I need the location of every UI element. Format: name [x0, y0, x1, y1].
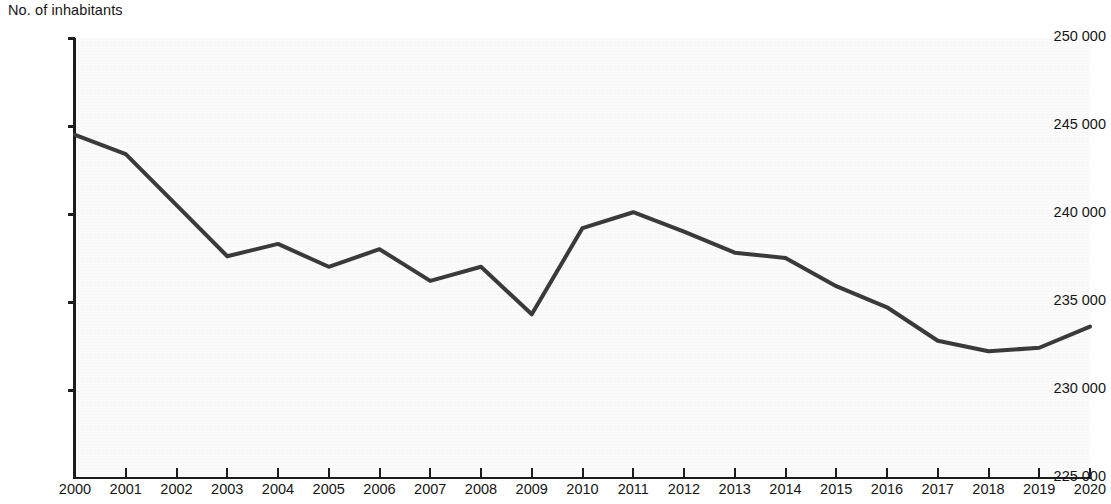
x-tick-label-2019: 2019	[1015, 481, 1063, 497]
x-tick-label-2008: 2008	[457, 481, 505, 497]
x-tick-mark-2016	[886, 468, 888, 477]
x-tick-label-2011: 2011	[609, 481, 657, 497]
x-tick-label-2010: 2010	[559, 481, 607, 497]
x-tick-label-2012: 2012	[660, 481, 708, 497]
x-tick-mark-2015	[835, 468, 837, 477]
x-tick-mark-2009	[531, 468, 533, 477]
y-tick-label-240000: 240 000	[1042, 204, 1106, 220]
y-tick-mark-245000	[68, 125, 75, 128]
x-tick-mark-2018	[988, 468, 990, 477]
x-tick-mark-2008	[480, 468, 482, 477]
x-tick-label-2006: 2006	[356, 481, 404, 497]
x-tick-label-2020: 2020	[1066, 481, 1111, 497]
x-tick-label-2015: 2015	[812, 481, 860, 497]
x-tick-mark-2002	[176, 468, 178, 477]
y-tick-label-230000: 230 000	[1042, 380, 1106, 396]
x-tick-mark-2013	[734, 468, 736, 477]
x-tick-label-2001: 2001	[102, 481, 150, 497]
x-tick-mark-2014	[785, 468, 787, 477]
y-axis-line	[73, 38, 76, 479]
x-tick-mark-2017	[937, 468, 939, 477]
plot-area	[75, 38, 1090, 478]
x-tick-mark-2012	[683, 468, 685, 477]
x-tick-label-2016: 2016	[863, 481, 911, 497]
x-tick-label-2017: 2017	[914, 481, 962, 497]
y-tick-mark-230000	[68, 389, 75, 392]
x-tick-label-2018: 2018	[965, 481, 1013, 497]
x-tick-mark-2003	[226, 468, 228, 477]
x-tick-mark-2006	[379, 468, 381, 477]
x-tick-label-2002: 2002	[153, 481, 201, 497]
x-tick-label-2007: 2007	[406, 481, 454, 497]
x-tick-label-2003: 2003	[203, 481, 251, 497]
x-tick-mark-2000	[74, 468, 76, 477]
x-tick-label-2014: 2014	[762, 481, 810, 497]
x-tick-label-2000: 2000	[51, 481, 99, 497]
y-tick-label-235000: 235 000	[1042, 292, 1106, 308]
x-tick-label-2009: 2009	[508, 481, 556, 497]
x-tick-mark-2001	[125, 468, 127, 477]
y-tick-label-250000: 250 000	[1042, 28, 1106, 44]
y-tick-mark-250000	[68, 37, 75, 40]
x-tick-mark-2020	[1089, 468, 1091, 477]
x-tick-mark-2010	[582, 468, 584, 477]
y-tick-label-245000: 245 000	[1042, 116, 1106, 132]
x-tick-mark-2004	[277, 468, 279, 477]
x-tick-mark-2007	[429, 468, 431, 477]
x-tick-mark-2005	[328, 468, 330, 477]
y-tick-mark-235000	[68, 301, 75, 304]
x-tick-label-2005: 2005	[305, 481, 353, 497]
x-tick-mark-2019	[1038, 468, 1040, 477]
y-axis-title: No. of inhabitants	[8, 2, 123, 18]
y-tick-mark-240000	[68, 213, 75, 216]
x-tick-label-2013: 2013	[711, 481, 759, 497]
scan-grain-overlay	[75, 38, 1090, 478]
x-tick-mark-2011	[632, 468, 634, 477]
x-tick-label-2004: 2004	[254, 481, 302, 497]
